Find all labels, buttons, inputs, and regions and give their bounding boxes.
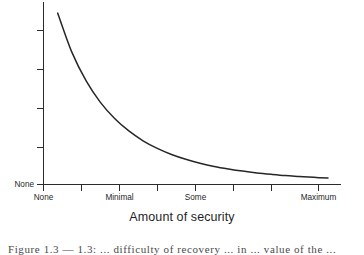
x-tick-label-some: Some xyxy=(185,193,207,200)
x-tick-label-none: None xyxy=(34,193,54,200)
x-axis-title: Amount of security xyxy=(0,210,364,224)
y-axis-origin-label: None xyxy=(14,180,34,189)
x-tick-label-maximum: Maximum xyxy=(301,193,337,200)
chart-plot-area: None None Minimal Some Maximum xyxy=(0,0,364,200)
figure-caption: Figure 1.3 — 1.3: ... difficulty of reco… xyxy=(8,243,364,255)
x-tick-label-minimal: Minimal xyxy=(105,193,133,200)
figure-container: None None Minimal Some Maximum Amount of… xyxy=(0,0,364,255)
data-curve xyxy=(58,13,328,178)
